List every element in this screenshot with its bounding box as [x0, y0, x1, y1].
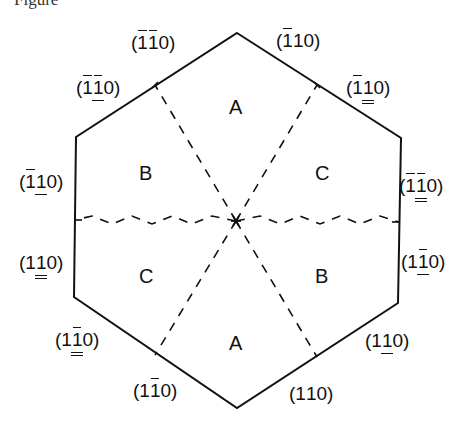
miller-label-bottom-right-upper: (110)	[365, 331, 409, 351]
region-lower-left-label: C	[139, 265, 153, 288]
miller-label-top-right-lower: (110)	[346, 78, 390, 98]
miller-label-left-upper: (110)	[19, 172, 63, 192]
center-star-icon	[231, 216, 241, 226]
dashed-boundary-top-left	[155, 85, 236, 221]
miller-label-top-right-upper: (110)	[276, 31, 320, 51]
dashed-boundary-right	[236, 216, 399, 224]
miller-label-top-left-lower: (110)	[76, 78, 120, 98]
miller-label-right-lower: (110)	[401, 252, 445, 272]
dashed-boundary-left	[75, 216, 236, 224]
dashed-boundary-bottom-right	[236, 221, 317, 357]
miller-label-top-left-upper: (110)	[131, 33, 175, 53]
region-top-label: A	[229, 96, 242, 119]
miller-label-bottom-right-lower: (110)	[289, 384, 333, 404]
region-upper-left-label: B	[139, 162, 152, 185]
dashed-boundary-bottom-left	[155, 221, 236, 355]
miller-label-right-upper: (110)	[399, 176, 443, 196]
region-bottom-label: A	[229, 332, 242, 355]
region-lower-right-label: B	[315, 265, 328, 288]
hexagon-diagram	[0, 0, 473, 423]
miller-label-left-lower: (110)	[19, 253, 63, 273]
region-upper-right-label: C	[315, 162, 329, 185]
miller-label-bottom-left-lower: (110)	[133, 381, 177, 401]
dashed-boundary-top-right	[236, 85, 317, 221]
miller-label-bottom-left-upper: (110)	[55, 330, 99, 350]
